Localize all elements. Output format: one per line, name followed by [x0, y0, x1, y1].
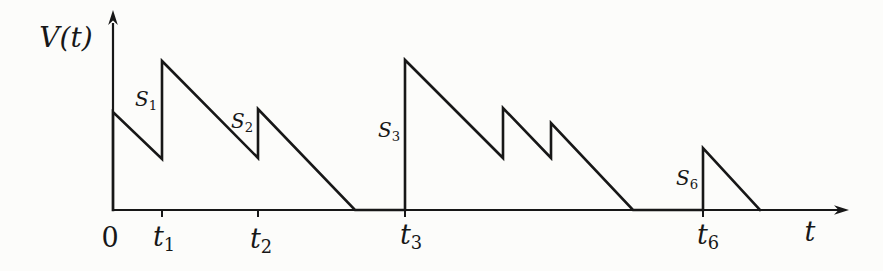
workload-plot-svg — [0, 0, 883, 271]
workload-process-figure: V(t)0t1t2t3t6tS1S2S3S6 — [0, 0, 883, 271]
y-axis-arrowhead — [108, 10, 118, 25]
v-process-sample-path — [113, 60, 760, 210]
